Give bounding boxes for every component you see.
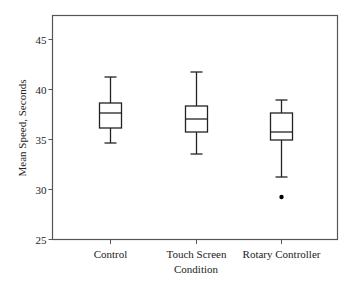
box-control	[100, 77, 122, 143]
box-plot-chart: 2530354045 ControlTouch ScreenRotary Con…	[0, 0, 355, 289]
box-touch-screen	[186, 72, 208, 154]
box-rotary-controller	[271, 100, 293, 199]
y-tick-label: 40	[36, 84, 48, 96]
y-tick-label: 45	[36, 34, 48, 46]
x-tick-label: Rotary Controller	[243, 248, 321, 260]
x-tick-label: Touch Screen	[166, 248, 227, 260]
y-axis-label: Mean Speed, Seconds	[16, 80, 28, 177]
iqr-box	[271, 113, 293, 140]
x-axis: ControlTouch ScreenRotary Controller	[94, 240, 321, 261]
boxes	[100, 72, 293, 199]
y-tick-label: 25	[36, 234, 48, 246]
outlier-point	[279, 195, 283, 199]
iqr-box	[100, 103, 122, 128]
x-tick-label: Control	[94, 248, 128, 260]
x-axis-label: Condition	[174, 263, 219, 275]
y-axis: 2530354045	[36, 34, 53, 246]
y-tick-label: 35	[36, 134, 48, 146]
y-tick-label: 30	[36, 184, 48, 196]
plot-frame	[53, 16, 338, 240]
